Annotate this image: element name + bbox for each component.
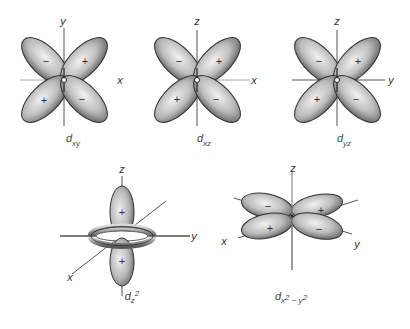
- axis-label-y: y: [191, 230, 197, 242]
- axis-label-x: x: [221, 235, 227, 247]
- sign-label: +: [119, 206, 125, 218]
- axis-label-z: z: [194, 15, 200, 27]
- sign-label: −: [316, 55, 322, 67]
- d-orbitals-diagram: [0, 0, 410, 329]
- caption-dxz: dxz: [197, 132, 211, 147]
- axis-label-x: x: [67, 271, 73, 283]
- axis-label-x: x: [251, 74, 257, 86]
- sign-label: +: [82, 55, 88, 67]
- axis-label-y: y: [60, 15, 66, 27]
- sign-label: −: [265, 200, 271, 212]
- caption-dz2: dz2: [125, 289, 140, 306]
- orbital-dxy: [14, 28, 115, 130]
- sign-label: +: [267, 222, 273, 234]
- sign-label: +: [216, 55, 222, 67]
- sign-label: +: [355, 55, 361, 67]
- sign-label: +: [314, 93, 320, 105]
- axis-label-z: z: [290, 162, 296, 174]
- orbital-dz2: [60, 176, 190, 296]
- caption-dxy: dxy: [66, 132, 80, 147]
- caption-dx2-y2: dx2 − y2: [275, 290, 307, 305]
- sign-label: −: [176, 55, 182, 67]
- axis-label-x: x: [117, 74, 123, 86]
- axis-label-y: y: [354, 238, 360, 250]
- axis-label-z: z: [119, 163, 125, 175]
- sign-label: +: [41, 94, 47, 106]
- sign-label: −: [79, 93, 85, 105]
- sign-label: −: [213, 93, 219, 105]
- axis-label-z: z: [334, 15, 340, 27]
- sign-label: +: [174, 93, 180, 105]
- sign-label: −: [316, 223, 322, 235]
- caption-dyz: dyz: [337, 132, 351, 147]
- orbital-dx2-y2: [234, 172, 358, 270]
- orbital-dxz: [147, 30, 250, 130]
- orbital-dyz: [287, 30, 388, 130]
- sign-label: +: [119, 255, 125, 267]
- sign-label: −: [43, 55, 49, 67]
- sign-label: +: [318, 204, 324, 216]
- axis-label-y: y: [388, 74, 394, 86]
- sign-label: −: [353, 93, 359, 105]
